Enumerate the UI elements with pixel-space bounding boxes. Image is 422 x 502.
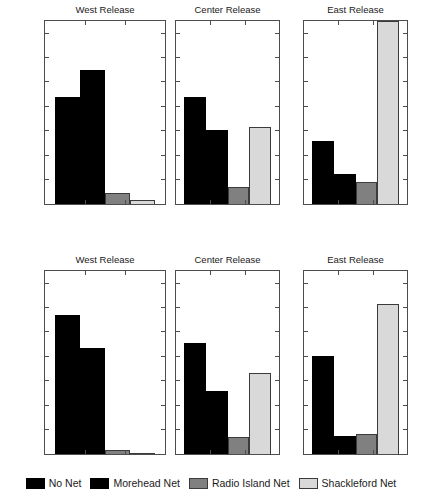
legend-label: Morehead Net <box>113 477 180 489</box>
chart-row-bottom: West Release Percent of total drogues 70… <box>0 252 422 474</box>
y-tick-mark <box>275 57 279 58</box>
panel-bottom-west-release: West Release Percent of total drogues 70… <box>44 252 166 474</box>
y-tick-mark <box>403 429 407 430</box>
y-tick-mark <box>161 283 165 284</box>
x-tick-mark <box>373 21 374 25</box>
y-tick-mark <box>304 405 308 406</box>
y-tick-mark <box>45 106 49 107</box>
y-tick-mark <box>161 204 165 205</box>
panel-title: Center Release <box>175 254 280 266</box>
y-tick-mark <box>403 405 407 406</box>
panel-top-west-release: West Release Percent of total drogues 70… <box>44 2 166 224</box>
x-tick-mark <box>85 200 86 204</box>
panel-title: East Release <box>303 254 408 266</box>
legend-label: Shackleford Net <box>322 477 397 489</box>
x-tick-mark <box>210 271 211 275</box>
bar-shackleford-net <box>130 200 155 204</box>
chart-row-top: West Release Percent of total drogues 70… <box>0 2 422 224</box>
y-tick-mark <box>161 356 165 357</box>
y-tick-mark <box>275 380 279 381</box>
y-tick-mark <box>45 204 49 205</box>
y-tick-mark <box>403 57 407 58</box>
bar-radio-island-net <box>356 434 378 454</box>
y-tick-mark <box>275 331 279 332</box>
y-tick-mark <box>304 106 308 107</box>
x-tick-mark <box>338 200 339 204</box>
legend-swatch-icon <box>26 478 45 489</box>
y-tick-mark <box>45 380 49 381</box>
x-tick-mark <box>210 450 211 454</box>
y-tick-mark <box>161 429 165 430</box>
y-tick-mark <box>176 33 180 34</box>
x-tick-mark <box>125 21 126 25</box>
legend-label: Radio Island Net <box>212 477 290 489</box>
panel-title: Center Release <box>175 4 280 16</box>
y-tick-mark <box>161 57 165 58</box>
y-tick-mark <box>45 155 49 156</box>
y-tick-mark <box>176 81 180 82</box>
bar-radio-island-net <box>228 437 250 454</box>
bar-no-net <box>184 343 206 454</box>
y-tick-mark <box>45 33 49 34</box>
x-tick-mark <box>210 200 211 204</box>
bar-group <box>176 271 279 454</box>
y-tick-mark <box>176 57 180 58</box>
bar-morehead-net <box>80 348 105 454</box>
y-tick-mark <box>275 454 279 455</box>
y-tick-mark <box>45 331 49 332</box>
x-tick-mark <box>245 21 246 25</box>
y-tick-mark <box>275 33 279 34</box>
y-tick-mark <box>176 429 180 430</box>
panel-title: East Release <box>303 4 408 16</box>
x-tick-mark <box>338 450 339 454</box>
x-tick-mark <box>125 200 126 204</box>
y-tick-mark <box>403 179 407 180</box>
y-tick-mark <box>275 405 279 406</box>
y-tick-mark <box>403 204 407 205</box>
x-tick-mark <box>245 271 246 275</box>
panel-title: West Release <box>44 4 166 16</box>
y-tick-mark <box>161 33 165 34</box>
x-tick-mark <box>373 271 374 275</box>
y-tick-mark <box>45 283 49 284</box>
y-tick-mark <box>275 307 279 308</box>
legend-swatch-icon <box>189 478 208 489</box>
legend-item-morehead-net: Morehead Net <box>90 477 180 489</box>
x-tick-mark <box>373 200 374 204</box>
plot-area: 706050403020100 <box>44 20 166 205</box>
bar-no-net <box>312 356 334 454</box>
y-tick-mark <box>275 81 279 82</box>
bar-group <box>304 21 407 204</box>
y-tick-mark <box>45 179 49 180</box>
legend-item-no-net: No Net <box>26 477 82 489</box>
y-tick-mark <box>161 331 165 332</box>
y-tick-mark <box>176 106 180 107</box>
y-tick-mark <box>304 33 308 34</box>
y-tick-mark <box>45 405 49 406</box>
y-tick-mark <box>275 155 279 156</box>
y-tick-mark <box>45 429 49 430</box>
x-tick-mark <box>125 450 126 454</box>
y-tick-mark <box>304 307 308 308</box>
y-tick-mark <box>161 130 165 131</box>
figure-canvas: West Release Percent of total drogues 70… <box>0 0 422 502</box>
y-tick-mark <box>403 155 407 156</box>
bar-no-net <box>55 97 80 204</box>
y-tick-mark <box>176 204 180 205</box>
plot-area: 706050403020100 <box>44 270 166 455</box>
bar-radio-island-net <box>105 450 130 454</box>
y-tick-mark <box>304 81 308 82</box>
x-tick-mark <box>85 21 86 25</box>
y-tick-mark <box>403 283 407 284</box>
y-tick-mark <box>45 454 49 455</box>
x-tick-mark <box>338 21 339 25</box>
y-tick-mark <box>304 283 308 284</box>
y-tick-mark <box>403 307 407 308</box>
y-tick-mark <box>45 307 49 308</box>
bar-group <box>45 21 165 204</box>
y-tick-mark <box>304 429 308 430</box>
y-tick-mark <box>304 331 308 332</box>
y-tick-mark <box>161 454 165 455</box>
y-tick-mark <box>403 130 407 131</box>
y-tick-mark <box>304 130 308 131</box>
